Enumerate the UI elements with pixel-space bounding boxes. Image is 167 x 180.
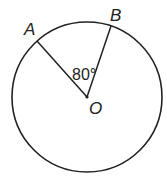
angle-label: 80° [72, 66, 96, 83]
label-a: A [23, 20, 35, 39]
label-b: B [110, 6, 121, 25]
label-o: O [89, 99, 102, 118]
circle-diagram: A B O 80° [0, 0, 167, 180]
radius-ob [87, 26, 111, 97]
